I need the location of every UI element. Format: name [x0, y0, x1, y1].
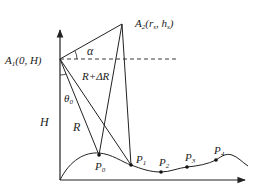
label-A1: A1(0, H)	[4, 54, 42, 68]
line-A2-P1	[122, 24, 131, 165]
point-P4	[214, 158, 218, 162]
geometry-diagram: A1(0, H) A2(rs, hs) α R+ΔR θ0 H R P0 P1 …	[0, 0, 267, 196]
point-P1	[129, 163, 133, 167]
label-P3: P3	[184, 151, 196, 165]
theta0-angle-arc	[60, 74, 66, 75]
label-A2: A2(rs, hs)	[134, 17, 174, 31]
label-P0: P0	[94, 160, 106, 174]
label-P2: P2	[158, 156, 170, 170]
label-theta0: θ0	[64, 92, 73, 106]
point-P3	[185, 165, 189, 169]
alpha-angle-arc	[75, 51, 77, 59]
label-R-plus-delta-R: R+ΔR	[81, 70, 110, 82]
label-P4: P4	[213, 144, 225, 158]
label-P1: P1	[135, 153, 146, 167]
label-H: H	[39, 115, 50, 129]
line-A2-P0	[99, 24, 122, 155]
point-P0	[97, 153, 101, 157]
point-P2	[159, 170, 163, 174]
label-alpha: α	[87, 44, 94, 58]
label-R: R	[72, 120, 81, 134]
